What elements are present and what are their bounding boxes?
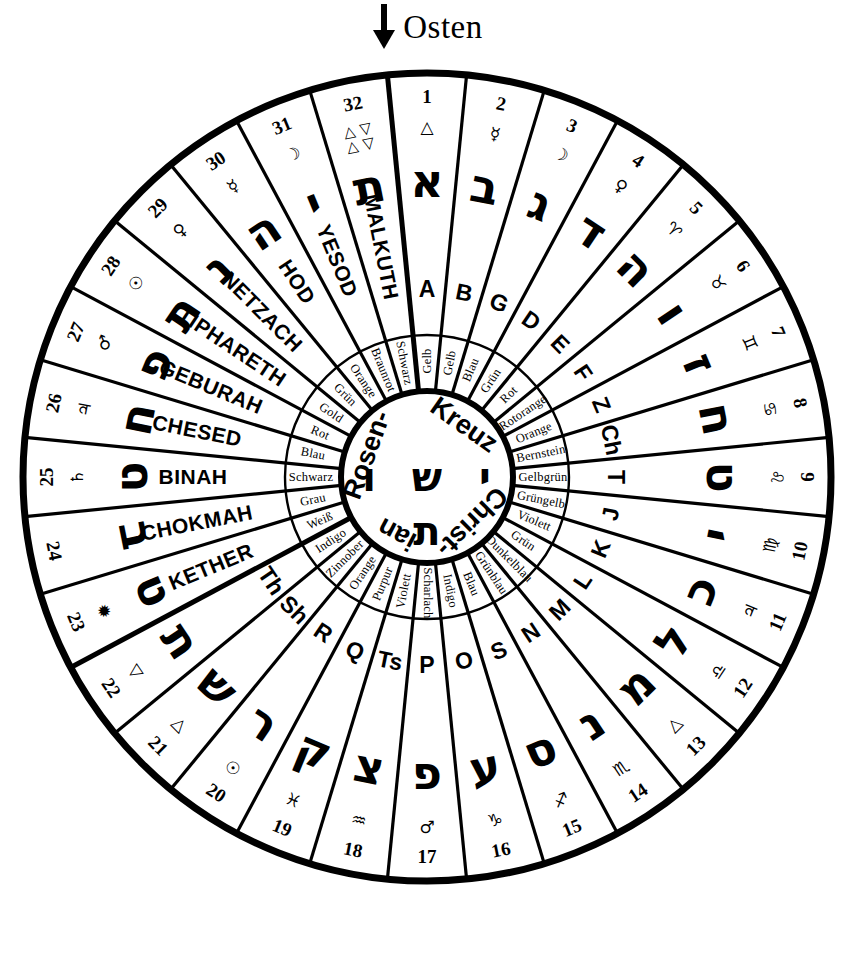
saturn-icon: ♄: [67, 469, 87, 484]
sector-number-text: 1: [422, 86, 432, 108]
sector-number-text: 25: [36, 468, 58, 487]
sector-astro-26: ♃: [72, 399, 95, 418]
hebrew-letter-glyph: א: [410, 158, 444, 204]
sector-number-18: 18: [341, 837, 364, 862]
color-label-9: Gelbgrün: [519, 470, 568, 485]
leo-icon: ♌: [767, 469, 787, 484]
color-label-1: Gelb: [420, 348, 435, 373]
hebrew-letter-glyph: פ: [412, 750, 442, 796]
center-hebrew-glyph: ת: [413, 511, 440, 551]
sector-number-text: 9: [796, 472, 818, 482]
sector-number-text: 32: [341, 92, 364, 117]
color-name: Schwarz: [289, 470, 333, 485]
jupiter-icon: ♃: [72, 399, 95, 418]
color-name: Scharlach: [420, 567, 435, 618]
hebrew-letter-glyph: ט: [108, 461, 154, 492]
latin-letter-glyph: P: [419, 652, 434, 679]
sector-number-26: 26: [42, 391, 67, 414]
color-name: Gelb: [420, 348, 435, 373]
sector-number-32: 32: [341, 92, 364, 117]
center-hebrew-shin: ש: [412, 457, 442, 497]
sector-astro-1: △: [420, 117, 433, 137]
diagram-header: Osten: [0, 4, 854, 54]
sector-number-text: 18: [341, 837, 364, 862]
hebrew-letter-9: ט: [700, 461, 746, 492]
arrow-down-icon: [371, 4, 397, 50]
sector-number-1: 1: [422, 86, 432, 108]
mars-icon: ♂: [419, 817, 434, 837]
hebrew-letter-25: ט: [108, 461, 154, 492]
wheel-container: 1△אAGelb2☿בBGelb3☽גGBlau4♀דDGrün5♈הERot6…: [13, 63, 841, 891]
sector-astro-25: ♄: [67, 469, 87, 484]
sector-number-25: 25: [36, 468, 58, 487]
hebrew-letter-glyph: ט: [700, 461, 746, 492]
rosicrucian-wheel-diagram: Osten 1△אAGelb2☿בBGelb3☽גGBlau4♀דDGrün5♈…: [0, 0, 854, 953]
color-name: Gelbgrün: [519, 470, 568, 485]
latin-letter-glyph: T: [602, 470, 629, 484]
color-label-25: Schwarz: [289, 470, 333, 485]
center-hebrew-tav: ת: [413, 511, 440, 551]
sector-number-text: 26: [42, 391, 67, 414]
triangle-up-icon: △: [420, 117, 433, 137]
center-hebrew-vav: ו: [362, 457, 376, 497]
sephira-name: BINAH: [159, 465, 228, 489]
latin-letter-1: A: [419, 276, 436, 303]
latin-letter-9: T: [602, 470, 629, 484]
sephira-label-binah: BINAH: [159, 465, 228, 489]
sector-number-17: 17: [418, 846, 437, 868]
sector-astro-9: ♌: [767, 469, 787, 484]
center-hebrew-glyph: ו: [362, 457, 376, 497]
sector-number-text: 17: [418, 846, 437, 868]
page-title: Osten: [403, 11, 483, 44]
color-label-17: Scharlach: [420, 567, 435, 618]
latin-letter-17: P: [419, 652, 434, 679]
center-hebrew-glyph: י: [479, 457, 491, 497]
hebrew-letter-1: א: [410, 158, 444, 204]
sector-number-9: 9: [796, 472, 818, 482]
center-hebrew-glyph: ש: [412, 457, 442, 497]
hebrew-letter-17: פ: [412, 750, 442, 796]
latin-letter-glyph: A: [419, 276, 436, 303]
center-hebrew-yod: י: [479, 457, 491, 497]
sector-astro-17: ♂: [419, 817, 434, 837]
